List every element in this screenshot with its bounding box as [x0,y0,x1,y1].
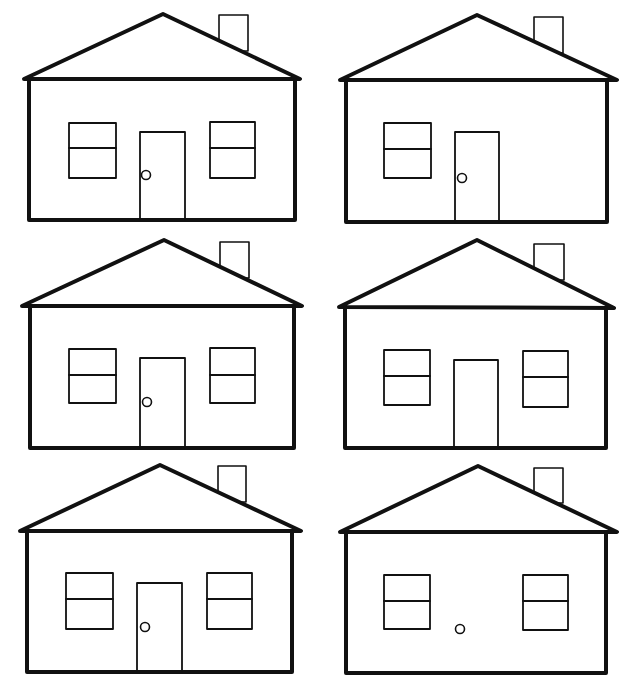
walls [346,81,607,222]
left-window [384,350,430,405]
left-window [69,123,116,178]
house-4 [339,240,614,448]
house-3 [22,240,302,448]
right-window [207,573,252,629]
roof [340,15,617,80]
roof [339,240,614,308]
left-window [66,573,113,629]
doorknob [142,171,151,180]
right-window [523,575,568,630]
right-window [523,351,568,407]
door [137,583,182,672]
doorknob [141,623,150,632]
left-window [69,349,116,403]
door [140,358,185,448]
roof [24,14,300,79]
walls [346,533,606,673]
door [454,360,498,448]
roof [22,240,302,306]
door [140,132,185,220]
doorknob [456,625,465,634]
doorknob [143,398,152,407]
houses-canvas [0,0,625,691]
house-5 [20,465,301,672]
roof [340,466,617,532]
left-window [384,575,430,629]
right-window [210,122,255,178]
house-1 [24,14,300,220]
doorknob [458,174,467,183]
roof [20,465,301,531]
house-6 [340,466,617,673]
left-window [384,123,431,178]
door [455,132,499,222]
house-2 [340,15,617,222]
